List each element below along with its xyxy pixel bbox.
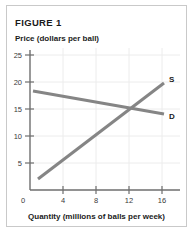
grid-horizontal [30,55,180,163]
y-tick-label-10: 10 [14,132,22,141]
y-tick-label-5: 5 [18,159,22,168]
y-tick-label-20: 20 [14,78,22,87]
supply-curve-label: S [169,75,175,84]
x-tick-label-4: 4 [61,196,65,205]
y-tick-label-15: 15 [14,105,22,114]
supply-curve [38,83,164,179]
demand-curve-label: D [169,112,175,121]
x-tick-label-0: 0 [21,196,25,205]
supply-demand-chart: 25 20 15 10 5 0 4 8 12 16 S D [0,0,193,232]
figure-panel: FIGURE 1 Price (dollars per ball) [0,0,193,232]
x-tick-label-16: 16 [158,196,166,205]
x-tick-label-8: 8 [94,196,98,205]
demand-curve [33,91,164,114]
x-axis-label: Quantity (millions of balls per week) [0,212,193,221]
y-tick-label-25: 25 [14,51,22,60]
x-tick-label-12: 12 [125,196,133,205]
grid-vertical [63,48,162,190]
